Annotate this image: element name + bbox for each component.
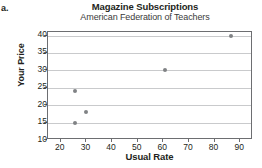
part-label: a.	[1, 3, 9, 13]
y-tick-label: 25	[27, 82, 47, 91]
data-point	[84, 110, 88, 114]
gridline	[48, 53, 251, 54]
y-tick-label: 10	[27, 135, 47, 144]
gridline	[48, 36, 251, 37]
y-tick-label: 35	[27, 47, 47, 56]
x-axis-label: Usual Rate	[47, 151, 252, 162]
y-tick-label: 40	[27, 30, 47, 39]
chart-title: Magazine Subscriptions	[32, 1, 258, 12]
chart-subtitle: American Federation of Teachers	[32, 12, 258, 23]
y-axis-ticks: 10152025303540	[22, 31, 47, 139]
data-point	[163, 68, 167, 72]
plot-area	[47, 31, 252, 139]
figure-container: a. Magazine Subscriptions American Feder…	[0, 0, 262, 168]
gridline	[48, 88, 251, 89]
title-block: Magazine Subscriptions American Federati…	[32, 1, 258, 23]
data-point	[73, 121, 77, 125]
gridline	[48, 123, 251, 124]
data-point	[73, 89, 77, 93]
y-tick-label: 20	[27, 100, 47, 109]
y-tick-label: 30	[27, 65, 47, 74]
gridline	[48, 105, 251, 106]
data-point	[229, 34, 233, 38]
y-tick-label: 15	[27, 117, 47, 126]
gridline	[48, 70, 251, 71]
